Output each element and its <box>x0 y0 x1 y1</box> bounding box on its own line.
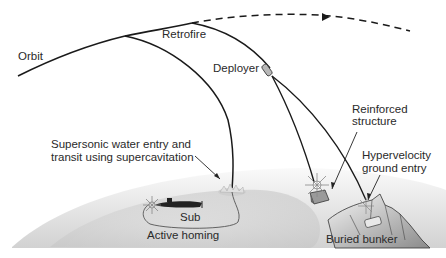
orbital-strike-diagram: Orbit Retrofire Deployer Reinforced stru… <box>0 0 446 258</box>
active-homing-label: Active homing <box>147 229 219 241</box>
buried-bunker-label: Buried bunker <box>326 233 398 245</box>
deployer-vehicle <box>261 63 273 76</box>
deployer-label: Deployer <box>213 62 259 74</box>
retrofire-label: Retrofire <box>162 28 206 40</box>
orbit-arrow-icon <box>322 13 330 21</box>
hypervelocity-label-line2: ground entry <box>362 162 427 174</box>
structure-explosion-icon <box>305 173 329 197</box>
diagram-graphics <box>0 0 446 258</box>
hypervelocity-label-line1: Hypervelocity <box>362 149 431 161</box>
dashed-continuation <box>192 14 410 31</box>
supersonic-label-line1: Supersonic water entry and <box>51 138 191 150</box>
sub-label: Sub <box>180 211 200 223</box>
trajectory-water <box>125 36 233 190</box>
reinforced-label-line1: Reinforced <box>352 103 408 115</box>
supersonic-label-line2: transit using supercavitation <box>51 151 194 163</box>
reinforced-label-line2: structure <box>352 115 397 127</box>
orbit-label: Orbit <box>18 50 43 62</box>
